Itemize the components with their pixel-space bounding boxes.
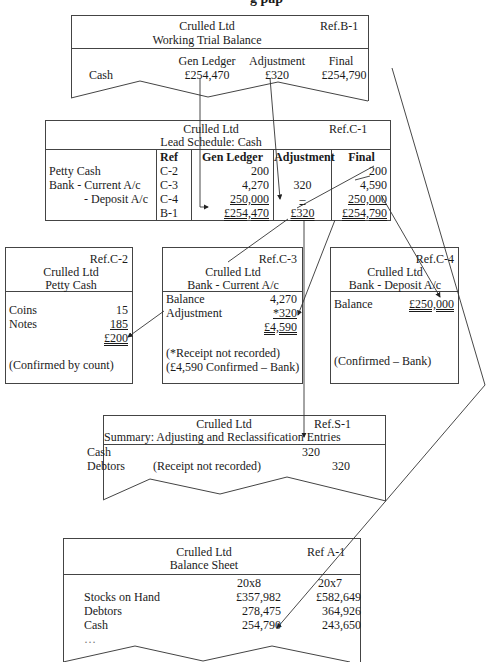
bs-ellipsis: …: [84, 632, 96, 646]
ls-adjustment-value: –: [274, 192, 331, 206]
petty-cash-box: Ref.C-2 Crulled Ltd Petty Cash Coins 15 …: [5, 247, 133, 384]
bc-ref: Ref.C-3: [223, 252, 297, 266]
bs-col-20x8: 20x8: [214, 576, 284, 590]
pc-ref: Ref.C-2: [66, 252, 128, 266]
ls-ref: Ref.C-1: [329, 122, 367, 136]
bs-col-20x7: 20x7: [299, 576, 361, 590]
ls-col-gen-ledger: Gen Ledger: [192, 150, 273, 164]
bd-ref: Ref.C-4: [391, 252, 454, 266]
pc-company: Crulled Ltd: [16, 265, 126, 279]
ls-header: Crulled Ltd Lead Schedule: Cash Ref.C-1: [46, 121, 390, 150]
bd-header: Ref.C-4 Crulled Ltd Bank - Deposit A/c: [331, 248, 458, 292]
ls-company: Crulled Ltd: [151, 122, 271, 136]
bs-value-20x7: 364,926: [284, 604, 361, 618]
ls-row-label: Petty Cash: [49, 164, 101, 178]
ls-adjustment-total: £320: [274, 206, 331, 220]
pc-total: £200: [76, 331, 128, 345]
bs-value-20x7: 243,650: [284, 618, 361, 632]
ls-row-ref: C-4: [160, 192, 178, 206]
wtb-header: Crulled Ltd Working Trial Balance Ref.B-…: [72, 16, 368, 49]
bs-value-20x8: 278,475: [204, 604, 281, 618]
wtb-company: Crulled Ltd: [142, 19, 272, 33]
sum-title: Summary: Adjusting and Reclassification …: [104, 430, 341, 444]
pc-row-value: 185: [76, 317, 128, 331]
bs-row-label: Stocks on Hand: [84, 590, 160, 604]
bank-current-box: Ref.C-3 Crulled Ltd Bank - Current A/c B…: [162, 247, 303, 384]
bc-company: Crulled Ltd: [173, 265, 293, 279]
lead-schedule-box: Crulled Ltd Lead Schedule: Cash Ref.C-1 …: [45, 120, 391, 221]
sum-debit: 320: [284, 445, 320, 459]
ls-gen-ledger-value: 250,000: [196, 192, 269, 206]
pc-title: Petty Cash: [16, 278, 126, 292]
ls-final-value: 4,590: [334, 178, 387, 192]
wtb-col-adjustment: Adjustment: [242, 54, 312, 68]
ls-col-adjustment: Adjustment: [274, 150, 331, 164]
bs-company: Crulled Ltd: [154, 545, 254, 559]
pc-row-value: 15: [76, 303, 128, 317]
bs-header: Crulled Ltd Balance Sheet Ref A-1: [64, 539, 360, 575]
bs-row-label: Cash: [84, 618, 108, 632]
bc-row-value: 4,270: [233, 292, 297, 306]
bs-row-label: Debtors: [84, 604, 122, 618]
bd-company: Crulled Ltd: [336, 265, 454, 279]
ls-row-label: - Deposit A/c: [84, 192, 148, 206]
bc-title: Bank - Current A/c: [168, 278, 298, 292]
ls-final-value: 200: [334, 164, 387, 178]
sum-row-label: Debtors: [87, 459, 125, 473]
pc-row-label: Coins: [9, 303, 37, 317]
ls-col-final: Final: [332, 150, 391, 164]
ls-row-label: Bank - Current A/c: [49, 178, 141, 192]
ls-gen-ledger-value: 4,270: [196, 178, 269, 192]
bc-row-value: *320: [233, 306, 297, 320]
sum-description: (Receipt not recorded): [153, 459, 261, 473]
sum-row-label: Cash: [87, 445, 111, 459]
wtb-col-final: Final: [312, 54, 370, 68]
bs-value-20x7: £582,649: [284, 590, 361, 604]
wtb-gen-ledger-value: £254,470: [172, 68, 242, 82]
summary-box: Crulled Ltd Summary: Adjusting and Recla…: [103, 415, 386, 501]
bank-deposit-box: Ref.C-4 Crulled Ltd Bank - Deposit A/c B…: [330, 247, 459, 384]
bs-ref: Ref A-1: [307, 545, 345, 559]
ls-gen-ledger-value: 200: [196, 164, 269, 178]
wtb-adjustment-value: £320: [242, 68, 312, 82]
wtb-col-gen-ledger: Gen Ledger: [172, 54, 242, 68]
page-title-fragment: g pap: [250, 0, 283, 7]
bc-note: (*Receipt not recorded): [166, 346, 280, 360]
sum-company: Crulled Ltd: [164, 417, 284, 431]
ls-adjustment-value: 320: [274, 178, 331, 192]
sum-header: Crulled Ltd Summary: Adjusting and Recla…: [104, 416, 385, 445]
bc-row-label: Adjustment: [166, 306, 222, 320]
wtb-ref: Ref.B-1: [320, 19, 358, 33]
wtb-title: Working Trial Balance: [132, 33, 282, 47]
ls-row-ref: C-2: [160, 164, 178, 178]
ls-col-divider: [156, 149, 157, 220]
bd-row-value: £250,000: [386, 297, 454, 311]
ls-row-ref: C-3: [160, 178, 178, 192]
bc-total: £4,590: [233, 320, 297, 334]
pc-row-label: Notes: [9, 317, 37, 331]
bc-row-label: Balance: [166, 292, 205, 306]
bs-value-20x8: 254,790: [204, 618, 281, 632]
ls-title: Lead Schedule: Cash: [141, 135, 281, 149]
bs-title: Balance Sheet: [154, 558, 254, 572]
ls-gen-ledger-total: £254,470: [196, 206, 269, 220]
wtb-row-label: Cash: [89, 68, 113, 82]
sum-ref: Ref.S-1: [314, 417, 351, 431]
bc-header: Ref.C-3 Crulled Ltd Bank - Current A/c: [163, 248, 302, 292]
sum-credit: 320: [314, 459, 350, 473]
bs-value-20x8: £357,982: [204, 590, 281, 604]
bd-note: (Confirmed – Bank): [334, 354, 431, 368]
bc-note: (£4,590 Confirmed – Bank): [166, 360, 299, 374]
ls-col-ref: Ref: [160, 150, 178, 164]
wtb-final-value: £254,790: [316, 68, 372, 82]
bd-row-label: Balance: [334, 297, 373, 311]
pc-header: Ref.C-2 Crulled Ltd Petty Cash: [6, 248, 132, 292]
bd-title: Bank - Deposit A/c: [331, 278, 459, 292]
ls-final-total: £254,790: [334, 206, 387, 220]
ls-final-value: 250,000: [334, 192, 387, 206]
pc-note: (Confirmed by count): [9, 358, 114, 372]
ls-row-ref: B-1: [160, 206, 178, 220]
balance-sheet-box: Crulled Ltd Balance Sheet Ref A-1 20x8 2…: [63, 538, 361, 662]
working-trial-balance-box: Crulled Ltd Working Trial Balance Ref.B-…: [71, 15, 369, 101]
